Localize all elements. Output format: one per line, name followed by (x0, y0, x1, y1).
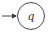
state-label: q (27, 10, 34, 23)
state-diagram: q (0, 0, 48, 32)
state-q: q (18, 3, 45, 30)
